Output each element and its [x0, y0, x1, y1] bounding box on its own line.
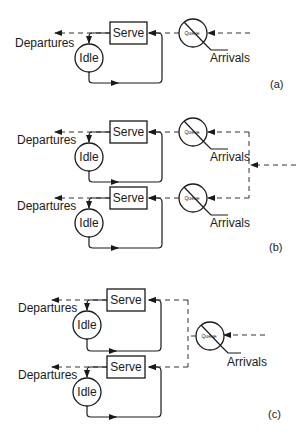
queue-label: Queue	[201, 333, 216, 339]
departures-label: Departures	[17, 133, 76, 147]
serve-label: Serve	[113, 125, 145, 139]
idle-label: Idle	[77, 385, 97, 399]
arrivals-leader	[205, 44, 228, 50]
arrivals-label: Arrivals	[210, 150, 250, 164]
departures-label: Departures	[17, 199, 76, 213]
idle-loop-arrow	[87, 406, 116, 417]
arrivals-leader	[205, 143, 228, 149]
departures-label: Departures	[18, 368, 77, 382]
idle-label: Idle	[79, 150, 99, 164]
panel-label: (b)	[269, 241, 282, 253]
idle-loop-arrow	[89, 171, 118, 182]
idle-label: Idle	[79, 216, 99, 230]
departures-label: Departures	[18, 301, 77, 315]
panel-b: Serve Idle Queue Arrivals Departures Ser…	[17, 118, 296, 253]
panel-label: (c)	[268, 408, 281, 420]
panel-c: Queue Arrivals Serve Idle Departures Ser…	[18, 289, 281, 420]
arrivals-leader	[222, 347, 241, 353]
queue-label: Queue	[184, 30, 199, 36]
serve-to-idle-arrow	[87, 300, 107, 310]
arrivals-label: Arrivals	[210, 51, 250, 65]
serve-to-idle-arrow	[87, 367, 107, 377]
serve-label: Serve	[110, 360, 142, 374]
idle-loop-arrow	[89, 237, 118, 248]
queueing-diagram: Serve Idle Queue Arrivals Departures (a)…	[0, 0, 299, 434]
serve-to-idle-arrow	[89, 132, 110, 142]
arrivals-label: Arrivals	[210, 216, 250, 230]
queue-label: Queue	[184, 129, 199, 135]
idle-label: Idle	[79, 51, 99, 65]
serve-to-idle-arrow	[89, 198, 110, 208]
departures-label: Departures	[15, 36, 74, 50]
serve-label: Serve	[113, 26, 145, 40]
serve-to-idle-arrow	[89, 33, 110, 43]
arrivals-label: Arrivals	[227, 355, 267, 369]
arrivals-leader	[205, 209, 228, 215]
idle-loop-arrow	[89, 72, 118, 83]
panel-label: (a)	[270, 78, 283, 90]
panel-a: Serve Idle Queue Arrivals Departures (a)	[15, 19, 283, 90]
idle-label: Idle	[77, 318, 97, 332]
queue-label: Queue	[184, 195, 199, 201]
idle-loop-arrow	[87, 339, 116, 351]
serve-label: Serve	[110, 293, 142, 307]
serve-label: Serve	[113, 191, 145, 205]
